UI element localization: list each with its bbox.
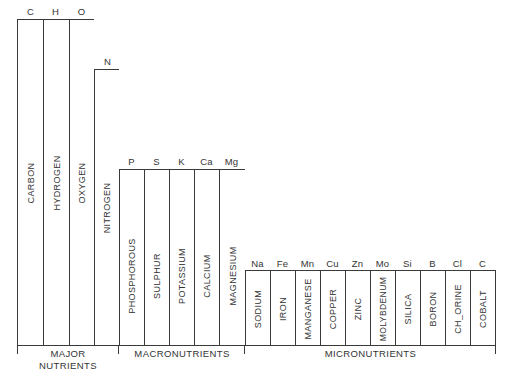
element-name: NITROGEN bbox=[102, 183, 112, 234]
column-hydrogen: HYDROGEN bbox=[43, 19, 69, 346]
element-symbol: Zn bbox=[345, 258, 370, 269]
group-label-micro: MICRONUTRIENTS bbox=[245, 348, 496, 360]
element-name: IRON bbox=[278, 296, 288, 320]
column-magnesium: MAGNESIUM bbox=[219, 169, 245, 346]
element-symbol: P bbox=[119, 156, 144, 167]
element-symbol: Mg bbox=[219, 156, 244, 167]
element-name: CARBON bbox=[26, 163, 36, 204]
element-symbol: Mo bbox=[370, 258, 395, 269]
column-carbon: CARBON bbox=[17, 19, 43, 346]
element-symbol: Mn bbox=[295, 258, 320, 269]
element-name: OXYGEN bbox=[77, 163, 87, 204]
element-name: MAGNESIUM bbox=[228, 246, 238, 305]
element-symbol: Cl bbox=[445, 258, 470, 269]
element-name: PHOSPHOROUS bbox=[127, 238, 137, 313]
column-iron: IRON bbox=[270, 270, 295, 346]
element-name: SULPHUR bbox=[152, 253, 162, 299]
element-name: CH_ORINE bbox=[453, 284, 463, 334]
element-symbol: Na bbox=[245, 258, 270, 269]
baseline bbox=[17, 345, 496, 346]
column-zinc: ZINC bbox=[345, 270, 370, 346]
column-chlorine: CH_ORINE bbox=[445, 270, 470, 346]
element-name: CALCIUM bbox=[202, 254, 212, 297]
column-boron: BORON bbox=[420, 270, 445, 346]
group-label-line: NUTRIENTS bbox=[17, 360, 119, 372]
group-label-major: MAJOR NUTRIENTS bbox=[17, 348, 119, 372]
column-molybdenum: MOLYBDENUM bbox=[370, 270, 395, 346]
element-symbol: N bbox=[95, 56, 120, 67]
group-label-macro: MACRONUTRIENTS bbox=[119, 348, 245, 360]
element-symbol: O bbox=[69, 6, 94, 17]
element-symbol: S bbox=[144, 156, 169, 167]
column-copper: COPPER bbox=[320, 270, 345, 346]
element-symbol: C bbox=[18, 6, 43, 17]
column-cobalt: COBALT bbox=[470, 270, 496, 346]
column-calcium: CALCIUM bbox=[194, 169, 219, 346]
element-name: ZINC bbox=[353, 297, 363, 320]
group-label-line: MAJOR bbox=[17, 348, 119, 360]
element-symbol: Ca bbox=[194, 156, 219, 167]
element-name: MOLYBDENUM bbox=[378, 276, 388, 340]
element-symbol: Fe bbox=[270, 258, 295, 269]
element-name: COPPER bbox=[328, 288, 338, 328]
element-symbol: C bbox=[470, 258, 495, 269]
group-label-line: MACRONUTRIENTS bbox=[119, 348, 245, 360]
column-phosphorous: PHOSPHOROUS bbox=[119, 169, 144, 346]
column-manganese: MANGANESE bbox=[295, 270, 320, 346]
element-name: SODIUM bbox=[253, 289, 263, 327]
element-symbol: H bbox=[43, 6, 68, 17]
element-name: COBALT bbox=[478, 290, 488, 328]
element-name: MANGANESE bbox=[303, 278, 313, 339]
element-name: SILICA bbox=[403, 293, 413, 324]
column-oxygen: OXYGEN bbox=[69, 19, 94, 346]
column-silica: SILICA bbox=[395, 270, 420, 346]
element-name: POTASSIUM bbox=[177, 248, 187, 304]
column-sodium: SODIUM bbox=[245, 270, 270, 346]
element-name: HYDROGEN bbox=[52, 155, 62, 210]
column-potassium: POTASSIUM bbox=[169, 169, 194, 346]
element-symbol: Cu bbox=[320, 258, 345, 269]
group-label-line: MICRONUTRIENTS bbox=[245, 348, 496, 360]
element-name: BORON bbox=[428, 291, 438, 326]
column-sulphur: SULPHUR bbox=[144, 169, 169, 346]
column-nitrogen: NITROGEN bbox=[94, 69, 119, 346]
element-symbol: Si bbox=[395, 258, 420, 269]
element-symbol: B bbox=[420, 258, 445, 269]
element-symbol: K bbox=[169, 156, 194, 167]
